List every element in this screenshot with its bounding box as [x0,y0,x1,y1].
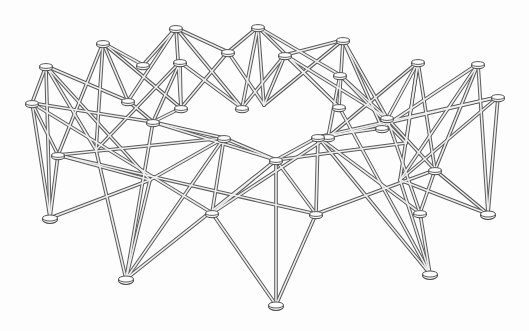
hub-node [122,99,135,106]
hub-node [472,62,485,69]
strut [96,62,180,150]
hub-node [26,101,39,108]
hub-node [492,95,505,102]
foot-hub-node [481,211,496,220]
strut [32,66,46,103]
hub-node [312,135,325,142]
foot-hub-node [119,276,134,285]
strut [478,64,488,214]
strut [50,155,58,218]
hub-node [236,106,249,113]
hub-node [337,38,350,45]
strut [50,180,150,218]
hub-node [40,64,53,71]
strut [488,97,498,214]
strut [258,27,264,105]
hub-node [414,211,427,218]
hub-node [429,168,442,175]
hub-node [218,136,231,143]
strut [143,28,176,65]
hub-node [381,116,394,123]
hub-node [334,73,347,80]
hub-node [333,105,346,112]
hub-node [206,211,219,218]
hub-node [137,63,150,70]
strut [224,138,276,160]
foot-hub-node [269,302,284,311]
hub-node [147,120,160,127]
strut [212,137,328,213]
hub-node [175,106,188,113]
strut [212,213,276,305]
hub-node [310,212,323,219]
foot-hub-node [43,215,58,224]
hub-node [97,41,110,48]
hub-node [412,60,425,67]
foot-hub-node [423,271,438,280]
strut [126,138,224,279]
hub-node [222,50,235,57]
hub-node [170,26,183,33]
strut [180,62,181,108]
strut [276,214,316,305]
hub-node [252,25,265,32]
truss-drawing [0,0,529,331]
strut [153,122,224,138]
strut [153,62,180,122]
hub-node [279,53,292,60]
hub-node [376,126,389,133]
hub-node [52,153,65,160]
scissor-truss-ring-illustration: Line drawing of a deployable circular sc… [0,0,529,331]
hub-node [270,158,283,165]
hub-node [174,60,187,67]
strut [435,170,488,214]
